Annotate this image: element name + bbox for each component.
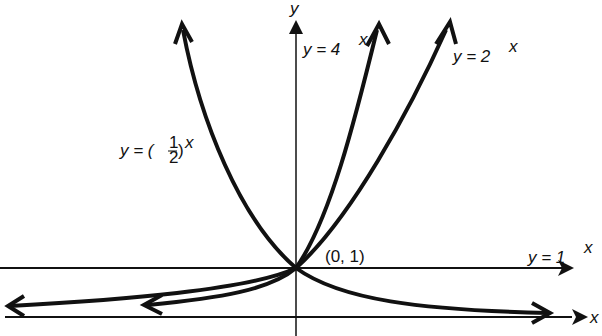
svg-text:y: y: [289, 0, 300, 18]
label-four: y = 4 x: [302, 30, 368, 59]
label-half: y = ( 1 2 ) x: [119, 133, 194, 167]
curve-four-x: [8, 24, 389, 316]
svg-text:): ): [178, 141, 184, 160]
svg-text:y = 2: y = 2: [452, 47, 491, 66]
svg-text:x: x: [583, 238, 593, 257]
svg-text:y = (: y = (: [119, 141, 156, 160]
label-one: y = 1 x: [527, 238, 593, 267]
svg-text:x: x: [589, 308, 599, 327]
svg-text:x: x: [358, 30, 368, 49]
label-two: y = 2 x: [452, 37, 518, 66]
y-axis: y: [289, 0, 303, 336]
svg-text:x: x: [184, 133, 194, 152]
point-label: (0, 1): [325, 247, 365, 266]
svg-text:x: x: [508, 37, 518, 56]
svg-text:y = 4: y = 4: [302, 40, 340, 59]
curve-half-x: [175, 24, 550, 323]
svg-text:y = 1: y = 1: [527, 248, 565, 267]
exponential-graph: x y y = ( 1 2 ) x y = 4 x: [0, 0, 602, 336]
